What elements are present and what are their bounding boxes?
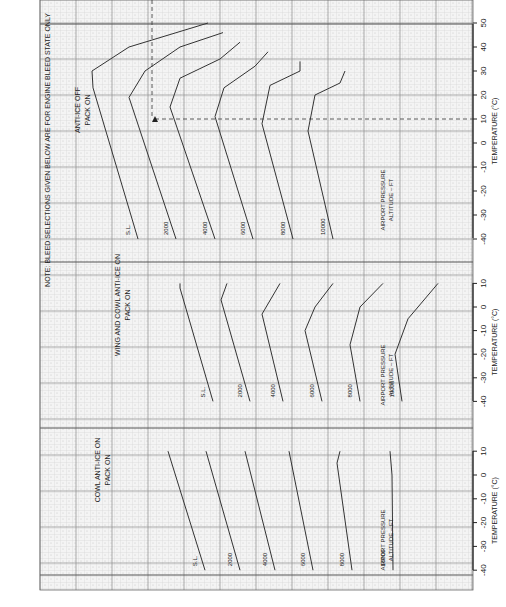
svg-text:-40: -40 xyxy=(479,233,488,245)
panel-title: ANTI-ICE OFF xyxy=(74,87,81,133)
note-text: NOTE: BLEED SELECTIONS GIVEN BELOW ARE F… xyxy=(44,13,51,287)
svg-text:-10: -10 xyxy=(479,161,488,173)
bleed-chart: S.L.200040006000800010000S.L.20004000600… xyxy=(0,0,506,607)
svg-text:AIRPORT PRESSURE: AIRPORT PRESSURE xyxy=(380,509,386,570)
svg-text:-30: -30 xyxy=(479,371,488,383)
temperature-axis-2: 100-10-20-30-40TEMPERATURE (°C) xyxy=(473,278,499,407)
altitude-label: S.L. xyxy=(200,386,206,397)
svg-text:10: 10 xyxy=(479,114,488,123)
svg-text:0: 0 xyxy=(479,140,488,145)
svg-text:-20: -20 xyxy=(479,185,488,197)
svg-text:-10: -10 xyxy=(479,492,488,504)
svg-text:AIRPORT PRESSURE: AIRPORT PRESSURE xyxy=(380,169,386,230)
altitude-label: 8000 xyxy=(339,552,345,566)
altitude-label: 6000 xyxy=(309,383,315,397)
altitude-label: 4000 xyxy=(270,383,276,397)
svg-text:-10: -10 xyxy=(479,324,488,336)
altitude-label: S.L. xyxy=(125,224,131,235)
altitude-label: 6000 xyxy=(240,221,246,235)
svg-text:0: 0 xyxy=(479,304,488,309)
panel-subtitle: PACK ON xyxy=(84,95,91,126)
axis-title: TEMPERATURE (°C) xyxy=(491,98,499,165)
altitude-label: 6000 xyxy=(300,552,306,566)
altitude-label: 4000 xyxy=(202,221,208,235)
altitude-label: 2000 xyxy=(237,383,243,397)
svg-text:10: 10 xyxy=(479,278,488,287)
svg-text:-40: -40 xyxy=(479,564,488,576)
temperature-axis-3: 100-10-20-30-40TEMPERATURE (°C) xyxy=(473,446,499,576)
altitude-label: 10000 xyxy=(320,218,326,235)
axis-title: TEMPERATURE (°C) xyxy=(491,309,499,376)
svg-text:0: 0 xyxy=(479,472,488,477)
svg-text:-30: -30 xyxy=(479,209,488,221)
svg-text:-40: -40 xyxy=(479,395,488,407)
svg-text:ALTITUDE – FT: ALTITUDE – FT xyxy=(388,353,394,396)
altitude-label: 2000 xyxy=(163,221,169,235)
temperature-axis-1: 50403020100-10-20-30-40TEMPERATURE (°C) xyxy=(473,18,499,245)
chart-grid xyxy=(40,0,473,590)
svg-text:30: 30 xyxy=(479,66,488,75)
panel-subtitle: PACK ON xyxy=(124,290,131,321)
altitude-label: 2000 xyxy=(227,552,233,566)
svg-text:40: 40 xyxy=(479,42,488,51)
svg-text:-30: -30 xyxy=(479,540,488,552)
panel-title: WING AND COWL ANTI-ICE ON xyxy=(114,254,121,356)
panel-title: COWL ANTI-ICE ON xyxy=(94,438,101,503)
svg-text:10: 10 xyxy=(479,446,488,455)
svg-text:-20: -20 xyxy=(479,516,488,528)
altitude-label: 8000 xyxy=(280,221,286,235)
axis-title: TEMPERATURE (°C) xyxy=(491,477,499,544)
svg-text:20: 20 xyxy=(479,90,488,99)
svg-text:AIRPORT PRESSURE: AIRPORT PRESSURE xyxy=(380,344,386,405)
svg-text:ALTITUDE – FT: ALTITUDE – FT xyxy=(388,518,394,561)
altitude-label: S.L. xyxy=(192,555,198,566)
svg-text:50: 50 xyxy=(479,18,488,27)
altitude-label: 8000 xyxy=(347,383,353,397)
svg-text:ALTITUDE – FT: ALTITUDE – FT xyxy=(388,178,394,221)
altitude-label: 4000 xyxy=(262,552,268,566)
svg-text:-20: -20 xyxy=(479,348,488,360)
panel-subtitle: PACK ON xyxy=(104,455,111,486)
